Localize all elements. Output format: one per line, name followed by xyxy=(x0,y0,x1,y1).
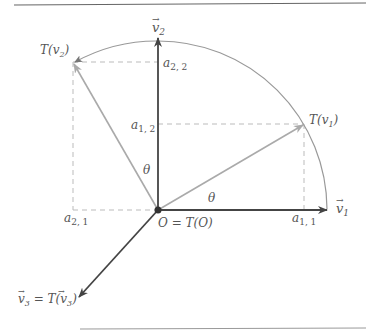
a21-label: a2, 1 xyxy=(64,211,88,227)
theta-label-vertical: θ xyxy=(143,163,151,177)
bottom-rule xyxy=(80,328,366,329)
origin-point xyxy=(155,207,162,214)
a11-label: a1, 1 xyxy=(292,211,316,227)
svg-text:→: → xyxy=(152,14,160,24)
Tv1-vector xyxy=(158,125,303,210)
top-rule xyxy=(14,3,366,5)
svg-text:→: → xyxy=(18,287,25,296)
projection-lines xyxy=(73,62,304,210)
v2-label: v2 → xyxy=(152,14,165,37)
rotation-diagram: v2 → v1 → T(v2) T(v1) a2, 2 a1, 2 a2, 1 … xyxy=(0,0,366,331)
rotation-arc xyxy=(75,41,327,209)
v3-label: v3 = T(v3) → → xyxy=(18,287,77,308)
svg-text:→: → xyxy=(336,195,344,205)
svg-text:v3 = T(v3): v3 = T(v3) xyxy=(18,292,77,308)
a12-label: a1, 2 xyxy=(131,118,155,134)
Tv2-vector xyxy=(74,64,158,210)
origin-label: O = T(O) xyxy=(158,216,213,230)
a22-label: a2, 2 xyxy=(163,56,187,72)
theta-label-horizontal: θ xyxy=(208,191,216,205)
v1-label: v1 → xyxy=(336,195,349,218)
svg-text:→: → xyxy=(58,287,65,296)
v3-axis xyxy=(79,210,158,297)
Tv2-label: T(v2) xyxy=(40,43,70,59)
Tv1-label: T(v1) xyxy=(309,113,339,129)
